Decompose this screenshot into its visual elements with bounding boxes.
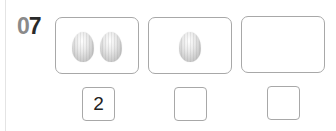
egg-group-box-1 [55, 17, 139, 74]
question-number-digit-1: 0 [17, 13, 29, 39]
egg-group-box-2 [148, 17, 232, 74]
egg-icon [100, 32, 122, 62]
egg-group-box-3 [241, 16, 325, 73]
left-margin-line [5, 0, 6, 131]
answer-box-2[interactable] [174, 87, 207, 121]
answer-box-1[interactable]: 2 [82, 87, 115, 121]
egg-icon [179, 32, 201, 62]
answer-box-3[interactable] [267, 86, 300, 120]
question-number-digit-2: 7 [29, 13, 41, 39]
egg-icon [72, 32, 94, 62]
question-number: 07 [17, 13, 41, 40]
